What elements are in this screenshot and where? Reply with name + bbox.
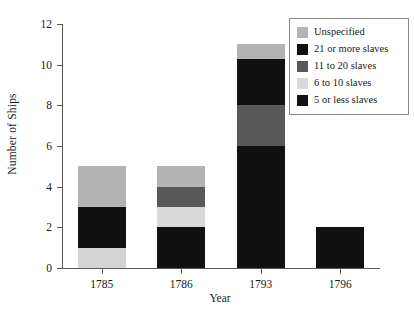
bar-segment[interactable] — [157, 187, 205, 207]
y-tick-mark — [57, 268, 62, 269]
bar-segment[interactable] — [78, 166, 126, 207]
chart-legend: Unspecified21 or more slaves11 to 20 sla… — [289, 18, 409, 115]
x-tick-label: 1793 — [226, 278, 296, 290]
y-tick-label: 12 — [26, 18, 52, 30]
bar-segment[interactable] — [237, 59, 285, 106]
bar-segment[interactable] — [157, 227, 205, 268]
bar-segment[interactable] — [237, 146, 285, 268]
x-tick-mark — [102, 269, 103, 274]
legend-item[interactable]: 21 or more slaves — [297, 41, 403, 58]
y-axis-title-text: Number of Ships — [6, 93, 18, 175]
y-tick-mark — [57, 105, 62, 106]
legend-item[interactable]: 5 or less slaves — [297, 92, 403, 109]
x-axis-title: Year — [60, 292, 380, 304]
y-tick-label: 4 — [26, 181, 52, 193]
bar-segment[interactable] — [157, 166, 205, 186]
y-tick-mark — [57, 146, 62, 147]
x-tick-label: 1786 — [146, 278, 216, 290]
legend-label: 21 or more slaves — [314, 44, 388, 55]
y-tick-label: 10 — [26, 59, 52, 71]
bar-segment[interactable] — [78, 207, 126, 248]
y-tick-mark — [57, 227, 62, 228]
legend-swatch-icon — [297, 78, 308, 89]
bar-segment[interactable] — [237, 44, 285, 58]
legend-item[interactable]: Unspecified — [297, 24, 403, 41]
y-axis-title: Number of Ships — [2, 0, 22, 268]
legend-swatch-icon — [297, 95, 308, 106]
bar-1786[interactable] — [157, 166, 205, 268]
y-tick-mark — [57, 187, 62, 188]
y-tick-mark — [57, 65, 62, 66]
x-tick-label: 1796 — [305, 278, 375, 290]
bar-segment[interactable] — [237, 105, 285, 146]
legend-label: Unspecified — [314, 27, 365, 38]
y-tick-label: 0 — [26, 262, 52, 274]
x-tick-mark — [181, 269, 182, 274]
bar-chart-figure: Number of Ships 024681012 17851786179317… — [0, 0, 414, 319]
legend-label: 6 to 10 slaves — [314, 78, 371, 89]
bar-segment[interactable] — [157, 207, 205, 227]
legend-item[interactable]: 6 to 10 slaves — [297, 75, 403, 92]
bar-1793[interactable] — [237, 44, 285, 268]
legend-swatch-icon — [297, 44, 308, 55]
bar-segment[interactable] — [78, 248, 126, 268]
x-tick-label: 1785 — [67, 278, 137, 290]
legend-label: 11 to 20 slaves — [314, 61, 376, 72]
y-tick-label: 2 — [26, 221, 52, 233]
x-tick-mark — [340, 269, 341, 274]
y-tick-label: 8 — [26, 99, 52, 111]
legend-swatch-icon — [297, 27, 308, 38]
bar-1796[interactable] — [316, 227, 364, 268]
bar-1785[interactable] — [78, 166, 126, 268]
x-axis-line — [62, 268, 380, 269]
y-tick-mark — [57, 24, 62, 25]
y-tick-label: 6 — [26, 140, 52, 152]
x-tick-mark — [261, 269, 262, 274]
legend-label: 5 or less slaves — [314, 95, 377, 106]
legend-item[interactable]: 11 to 20 slaves — [297, 58, 403, 75]
bar-segment[interactable] — [316, 227, 364, 268]
legend-swatch-icon — [297, 61, 308, 72]
y-axis-line — [62, 24, 63, 269]
